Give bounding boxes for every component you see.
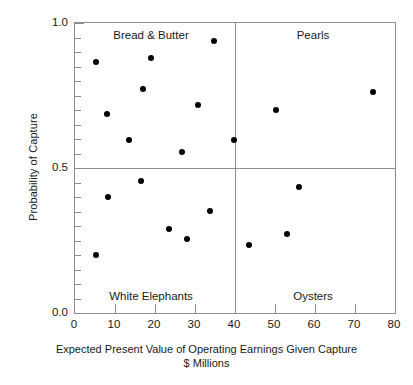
scatter-chart: Probability of Capture 0.00.51.0 0102030…	[0, 0, 413, 385]
data-point	[296, 184, 302, 190]
data-point	[166, 226, 172, 232]
data-point	[105, 194, 111, 200]
y-tick-minor	[75, 154, 81, 155]
x-tick-major	[155, 304, 156, 313]
x-tick-major	[275, 304, 276, 313]
y-tick-major	[75, 313, 84, 314]
data-point	[140, 86, 146, 92]
x-tick-major	[115, 304, 116, 313]
data-point	[273, 107, 279, 113]
quadrant-divider-horizontal	[75, 168, 395, 169]
x-axis-title: Expected Present Value of Operating Earn…	[0, 342, 413, 370]
y-tick-minor	[75, 183, 81, 184]
y-tick-minor	[75, 125, 81, 126]
y-tick-minor	[75, 284, 81, 285]
x-tick-label: 10	[94, 318, 134, 330]
y-tick-minor	[75, 226, 81, 227]
y-tick-label: 1.0	[28, 16, 68, 28]
x-tick-label: 60	[294, 318, 334, 330]
data-point	[207, 208, 213, 214]
x-tick-major	[235, 304, 236, 313]
y-tick-minor	[75, 255, 81, 256]
data-point	[195, 102, 201, 108]
quadrant-label: Bread & Butter	[113, 29, 188, 41]
data-point	[148, 55, 154, 61]
plot-area: Bread & ButterPearlsWhite ElephantsOyste…	[74, 22, 396, 314]
y-tick-minor	[75, 81, 81, 82]
data-point	[184, 236, 190, 242]
y-tick-label: 0.0	[28, 306, 68, 318]
x-tick-label: 30	[174, 318, 214, 330]
x-tick-label: 50	[254, 318, 294, 330]
x-tick-label: 0	[54, 318, 94, 330]
y-tick-minor	[75, 38, 81, 39]
x-tick-label: 80	[374, 318, 413, 330]
x-tick-label: 40	[214, 318, 254, 330]
data-point	[126, 137, 132, 143]
data-point	[104, 111, 110, 117]
data-point	[284, 231, 290, 237]
y-tick-minor	[75, 67, 81, 68]
x-tick-major	[195, 304, 196, 313]
y-tick-minor	[75, 212, 81, 213]
y-tick-label: 0.5	[28, 161, 68, 173]
y-tick-minor	[75, 96, 81, 97]
data-point	[231, 137, 237, 143]
data-point	[246, 242, 252, 248]
data-point	[370, 89, 376, 95]
x-axis-title-line2: $ Millions	[0, 356, 413, 370]
x-tick-label: 70	[334, 318, 374, 330]
y-tick-minor	[75, 197, 81, 198]
y-tick-major	[75, 23, 84, 24]
quadrant-label: White Elephants	[109, 290, 193, 302]
y-tick-minor	[75, 299, 81, 300]
data-point	[179, 149, 185, 155]
y-tick-minor	[75, 110, 81, 111]
x-tick-major	[355, 304, 356, 313]
x-axis-title-line1: Expected Present Value of Operating Earn…	[56, 343, 357, 355]
data-point	[93, 252, 99, 258]
y-tick-minor	[75, 52, 81, 53]
y-tick-minor	[75, 270, 81, 271]
y-tick-minor	[75, 139, 81, 140]
data-point	[211, 38, 217, 44]
y-tick-minor	[75, 241, 81, 242]
quadrant-label: Pearls	[297, 29, 330, 41]
data-point	[138, 178, 144, 184]
data-point	[93, 59, 99, 65]
x-tick-major	[315, 304, 316, 313]
x-tick-label: 20	[134, 318, 174, 330]
y-tick-major	[75, 168, 84, 169]
quadrant-label: Oysters	[293, 290, 333, 302]
